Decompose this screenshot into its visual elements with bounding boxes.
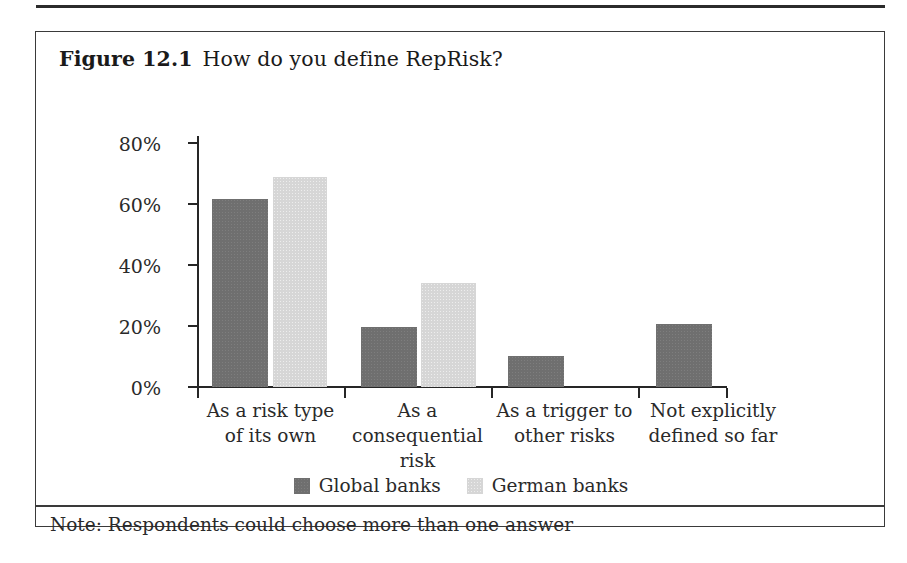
bar-global-as-a-trigger-to-other-risks[interactable] (508, 356, 564, 387)
legend-item-global-banks[interactable]: Global banks (294, 475, 441, 496)
category-label-0-line-0: As a risk type (197, 398, 344, 423)
y-tick-label-40: 40% (99, 257, 161, 276)
figure-container: Figure 12.1How do you define RepRisk? 80… (35, 31, 885, 527)
category-label-2: As a trigger to other risks (491, 398, 638, 448)
y-tick-mark-20 (188, 325, 199, 327)
x-tick-mark-3 (638, 388, 640, 398)
y-tick-label-80: 80% (99, 135, 161, 154)
chart-plot-area: 80% 60% 40% 20% 0% (36, 32, 886, 472)
y-tick-label-20: 20% (99, 318, 161, 337)
legend-item-german-banks[interactable]: German banks (467, 475, 628, 496)
chart-legend: Global banks German banks (36, 475, 886, 496)
y-axis-tick-labels: 80% 60% 40% 20% 0% (99, 32, 161, 472)
y-tick-label-60: 60% (99, 196, 161, 215)
category-label-2-line-1: other risks (491, 423, 638, 448)
y-tick-mark-40 (188, 264, 199, 266)
note-separator (36, 505, 884, 507)
category-label-0: As a risk type of its own (197, 398, 344, 448)
x-tick-mark-4 (726, 388, 728, 398)
bar-global-as-a-risk-type-of-its-own[interactable] (212, 199, 268, 387)
category-label-3-line-0: Not explicitly (638, 398, 788, 423)
figure-note: Note: Respondents could choose more than… (50, 514, 573, 535)
bar-german-as-a-risk-type-of-its-own[interactable] (273, 177, 327, 387)
bars-layer (199, 136, 727, 387)
y-tick-label-0: 0% (99, 379, 161, 398)
category-label-1: As a consequential risk (344, 398, 491, 473)
x-tick-mark-0 (197, 388, 199, 398)
x-tick-mark-1 (344, 388, 346, 398)
category-label-3: Not explicitly defined so far (638, 398, 788, 448)
category-label-2-line-0: As a trigger to (491, 398, 638, 423)
y-tick-mark-60 (188, 203, 199, 205)
category-label-1-line-0: As a (344, 398, 491, 423)
category-label-1-line-2: risk (344, 448, 491, 473)
category-label-0-line-1: of its own (197, 423, 344, 448)
legend-swatch-global-banks-icon (294, 478, 310, 494)
legend-label-german-banks: German banks (492, 475, 628, 496)
bar-global-not-explicitly-defined-so-far[interactable] (656, 324, 712, 387)
y-tick-mark-80 (188, 142, 199, 144)
category-label-3-line-1: defined so far (638, 423, 788, 448)
bar-german-as-a-consequential-risk[interactable] (421, 283, 476, 387)
x-axis-category-labels: As a risk type of its own As a consequen… (197, 398, 727, 472)
legend-swatch-german-banks-icon (467, 478, 483, 494)
x-tick-mark-2 (491, 388, 493, 398)
page-top-rule (36, 5, 885, 8)
category-label-1-line-1: consequential (344, 423, 491, 448)
bar-global-as-a-consequential-risk[interactable] (361, 327, 417, 387)
legend-label-global-banks: Global banks (319, 475, 441, 496)
